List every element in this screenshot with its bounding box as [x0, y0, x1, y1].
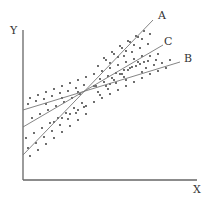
scatter-point — [109, 93, 111, 95]
scatter-point — [141, 77, 143, 79]
scatter-point — [83, 84, 85, 86]
scatter-point — [51, 130, 53, 132]
line-c-label: C — [164, 35, 172, 48]
scatter-point — [51, 95, 53, 97]
scatter-point — [113, 79, 115, 81]
scatter-point — [101, 97, 103, 99]
regression-diagram: Y X A B C — [0, 0, 220, 202]
scatter-point — [135, 65, 137, 67]
scatter-point — [29, 97, 31, 99]
scatter-point — [75, 87, 77, 89]
scatter-point — [149, 73, 151, 75]
scatter-point — [33, 132, 35, 134]
scatter-point — [147, 43, 149, 45]
scatter-point — [149, 55, 151, 57]
scatter-point — [125, 79, 127, 81]
scatter-point — [145, 67, 147, 69]
scatter-point — [97, 91, 99, 93]
line-a-label: A — [157, 9, 167, 22]
scatter-point — [93, 101, 95, 103]
scatter-point — [105, 59, 107, 61]
scatter-point — [139, 47, 141, 49]
scatter-point — [29, 155, 31, 157]
scatter-point — [111, 77, 113, 79]
scatter-point — [143, 61, 145, 63]
scatter-point — [121, 73, 123, 75]
scatter-point — [133, 44, 135, 46]
scatter-point — [127, 40, 129, 42]
scatter-point — [59, 124, 61, 126]
scatter-point — [105, 85, 107, 87]
scatter-point — [103, 57, 105, 59]
scatter-point — [99, 78, 101, 80]
scatter-point — [111, 51, 113, 53]
scatter-point — [103, 81, 105, 83]
scatter-point — [61, 117, 63, 119]
scatter-point — [83, 106, 85, 108]
scatter-point — [165, 67, 167, 69]
scatter-point — [55, 105, 57, 107]
scatter-point — [133, 58, 135, 60]
scatter-point — [85, 113, 87, 115]
scatter-point — [121, 47, 123, 49]
scatter-point — [75, 112, 77, 114]
scatter-point — [39, 113, 41, 115]
scatter-point — [133, 81, 135, 83]
scatter-point — [123, 76, 125, 78]
scatter-point — [153, 64, 155, 66]
scatter-point — [73, 107, 75, 109]
scatter-point — [125, 50, 127, 52]
x-axis-label: X — [193, 183, 201, 196]
scatter-points — [25, 30, 171, 157]
scatter-point — [81, 102, 83, 104]
line-b-label: B — [184, 52, 192, 65]
scatter-point — [129, 67, 131, 69]
line-a — [23, 20, 153, 155]
scatter-point — [69, 125, 71, 127]
scatter-point — [125, 61, 127, 63]
scatter-point — [53, 88, 55, 90]
scatter-point — [119, 73, 121, 75]
scatter-point — [31, 117, 33, 119]
scatter-point — [25, 137, 27, 139]
scatter-point — [147, 60, 149, 62]
scatter-point — [131, 66, 133, 68]
scatter-point — [161, 62, 163, 64]
scatter-point — [139, 63, 141, 65]
scatter-point — [61, 131, 63, 133]
scatter-point — [43, 136, 45, 138]
scatter-point — [123, 55, 125, 57]
scatter-point — [37, 94, 39, 96]
scatter-point — [59, 92, 61, 94]
scatter-point — [45, 143, 47, 145]
scatter-point — [27, 103, 29, 105]
scatter-point — [47, 109, 49, 111]
scatter-point — [41, 127, 43, 129]
scatter-point — [35, 100, 37, 102]
scatter-point — [77, 109, 79, 111]
scatter-point — [69, 82, 71, 84]
scatter-point — [107, 88, 109, 90]
scatter-point — [65, 112, 67, 114]
scatter-point — [53, 137, 55, 139]
scatter-point — [117, 89, 119, 91]
scatter-point — [99, 94, 101, 96]
scatter-point — [61, 85, 63, 87]
scatter-point — [77, 119, 79, 121]
scatter-point — [43, 98, 45, 100]
scatter-point — [109, 67, 111, 69]
scatter-point — [45, 91, 47, 93]
scatter-point — [97, 65, 99, 67]
scatter-point — [141, 71, 143, 73]
scatter-point — [93, 73, 95, 75]
scatter-point — [69, 113, 71, 115]
scatter-point — [157, 70, 159, 72]
scatter-point — [123, 69, 125, 71]
scatter-point — [77, 79, 79, 81]
scatter-point — [101, 70, 103, 72]
scatter-point — [95, 85, 97, 87]
scatter-point — [119, 45, 121, 47]
scatter-point — [157, 53, 159, 55]
scatter-point — [117, 64, 119, 66]
scatter-point — [37, 149, 39, 151]
